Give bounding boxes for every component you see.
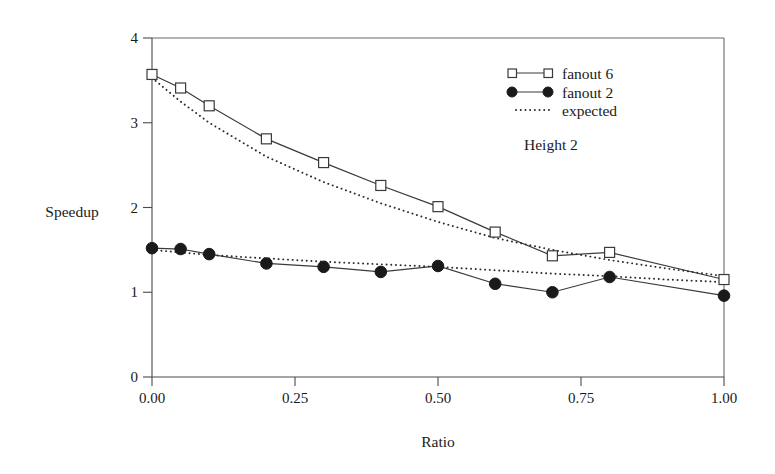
data-point-marker-square [319, 158, 329, 168]
legend-marker-circle-right [543, 87, 553, 97]
chart-figure: 01234 0.000.250.500.751.00 Speedup Ratio… [0, 0, 775, 474]
speedup-vs-ratio-chart: 01234 0.000.250.500.751.00 Speedup Ratio… [0, 0, 775, 474]
y-tick-label: 3 [131, 115, 139, 131]
x-tick-label: 0.50 [425, 390, 451, 406]
x-axis-title: Ratio [421, 433, 455, 450]
x-axis-ticks: 0.000.250.500.751.00 [139, 377, 737, 406]
data-point-marker-circle [146, 242, 158, 254]
series-line-fanout-6 [152, 74, 724, 279]
markers-layer [146, 69, 730, 301]
data-point-marker-square [261, 134, 271, 144]
y-tick-label: 4 [131, 30, 139, 46]
data-point-marker-square [147, 69, 157, 79]
y-tick-label: 0 [131, 369, 139, 385]
data-point-marker-square [490, 227, 500, 237]
data-point-marker-square [605, 247, 615, 257]
legend-label-expected: expected [562, 102, 617, 119]
annotation-height-2: Height 2 [524, 136, 578, 153]
data-point-marker-circle [261, 258, 273, 270]
y-tick-label: 2 [131, 200, 139, 216]
legend-marker-circle-left [507, 87, 517, 97]
data-point-marker-circle [718, 290, 730, 302]
legend-marker-square-right [544, 69, 553, 78]
data-point-marker-square [547, 251, 557, 261]
legend-marker-square-left [508, 69, 517, 78]
data-point-marker-circle [318, 261, 330, 273]
data-point-marker-square [719, 275, 729, 285]
series-line-expected-fanout-6- [152, 78, 724, 276]
legend-entry-fanout-6: fanout 6 [508, 65, 613, 82]
x-tick-label: 0.75 [568, 390, 594, 406]
x-tick-label: 1.00 [711, 390, 737, 406]
y-axis-ticks: 01234 [131, 30, 153, 385]
legend-label-fanout-6: fanout 6 [562, 65, 613, 82]
y-tick-label: 1 [131, 284, 139, 300]
legend-entry-expected: expected [516, 102, 617, 119]
y-axis-title: Speedup [45, 203, 99, 220]
data-point-marker-square [433, 202, 443, 212]
data-point-marker-circle [175, 243, 187, 255]
legend-entry-fanout-2: fanout 2 [507, 84, 613, 101]
x-tick-label: 0.25 [282, 390, 308, 406]
data-point-marker-square [204, 101, 214, 111]
data-point-marker-square [376, 180, 386, 190]
x-tick-label: 0.00 [139, 390, 165, 406]
data-point-marker-square [176, 83, 186, 93]
data-point-marker-circle [432, 260, 444, 272]
data-point-marker-circle [547, 286, 559, 298]
data-point-marker-circle [604, 271, 616, 283]
data-point-marker-circle [375, 266, 387, 278]
legend-label-fanout-2: fanout 2 [562, 84, 613, 101]
chart-legend: fanout 6 fanout 2 expected [507, 65, 617, 119]
data-point-marker-circle [203, 248, 215, 260]
data-point-marker-circle [489, 278, 501, 290]
